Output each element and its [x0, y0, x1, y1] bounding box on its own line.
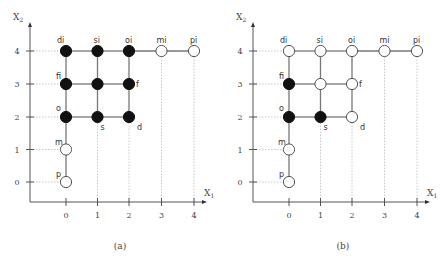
y-tick-label: 0 — [14, 178, 19, 187]
y-tick-label: 4 — [14, 47, 19, 56]
lattice-diagram: 0123401234X2X1disioimipififosdmp(a)01234… — [0, 0, 446, 262]
y-tick-label: 3 — [237, 80, 242, 89]
node-center-filled — [92, 78, 103, 89]
node-label-f: f — [136, 80, 139, 89]
y-axis-arrow-icon — [28, 22, 32, 27]
node-p-empty — [60, 176, 71, 187]
panel-caption: (b) — [337, 241, 350, 251]
x-tick-label: 0 — [286, 211, 291, 220]
node-label-mi: mi — [157, 36, 167, 45]
node-d-empty — [346, 111, 357, 122]
x-axis-label: X1 — [204, 188, 214, 199]
x-tick-label: 1 — [95, 211, 100, 220]
node-label-si: si — [94, 36, 100, 45]
node-p-empty — [283, 176, 294, 187]
x-tick-label: 0 — [63, 211, 68, 220]
x-tick-label: 3 — [159, 211, 164, 220]
node-label-mi: mi — [380, 36, 390, 45]
node-label-di: di — [280, 36, 287, 45]
x-axis-arrow-icon — [425, 200, 430, 204]
node-o-filled — [60, 111, 71, 122]
node-label-o: o — [56, 104, 61, 113]
y-tick-label: 1 — [237, 146, 242, 155]
node-label-p: p — [279, 170, 284, 179]
node-label-p: p — [56, 170, 61, 179]
x-tick-label: 2 — [126, 211, 131, 220]
y-tick-label: 2 — [14, 113, 19, 122]
x-axis-label: X1 — [427, 188, 437, 199]
node-label-oi: oi — [125, 36, 132, 45]
node-oi-empty — [346, 45, 357, 56]
node-s-filled — [92, 111, 103, 122]
x-tick-label: 4 — [191, 211, 196, 220]
y-tick-label: 4 — [237, 47, 242, 56]
node-f-empty — [346, 78, 357, 89]
node-label-m: m — [278, 138, 286, 147]
x-tick-label: 2 — [349, 211, 354, 220]
x-axis-arrow-icon — [202, 200, 207, 204]
node-label-d: d — [360, 123, 365, 132]
node-f-filled — [123, 78, 134, 89]
node-pi-empty — [188, 45, 199, 56]
node-label-o: o — [279, 104, 284, 113]
node-oi-filled — [123, 45, 134, 56]
y-tick-label: 3 — [14, 80, 19, 89]
panel-b: 0123401234X2X1disioimipififosdmp(b) — [236, 12, 437, 251]
y-tick-label: 2 — [237, 113, 242, 122]
node-center-empty — [315, 78, 326, 89]
node-label-pi: pi — [190, 36, 197, 45]
node-di-filled — [60, 45, 71, 56]
y-axis-arrow-icon — [251, 22, 255, 27]
node-label-fi: fi — [56, 72, 61, 81]
panel-a: 0123401234X2X1disioimipififosdmp(a) — [13, 12, 214, 251]
panel-caption: (a) — [114, 241, 126, 251]
node-label-d: d — [137, 123, 142, 132]
y-axis-label: X2 — [236, 12, 246, 23]
x-tick-label: 3 — [382, 211, 387, 220]
node-si-empty — [315, 45, 326, 56]
node-s-filled — [315, 111, 326, 122]
x-tick-label: 1 — [318, 211, 323, 220]
node-di-empty — [283, 45, 294, 56]
node-o-filled — [283, 111, 294, 122]
node-mi-empty — [379, 45, 390, 56]
node-label-s: s — [101, 123, 105, 132]
node-pi-empty — [411, 45, 422, 56]
node-mi-empty — [156, 45, 167, 56]
node-label-si: si — [317, 36, 323, 45]
y-tick-label: 0 — [237, 178, 242, 187]
node-label-pi: pi — [413, 36, 420, 45]
node-label-di: di — [57, 36, 64, 45]
y-tick-label: 1 — [14, 146, 19, 155]
node-label-oi: oi — [348, 36, 355, 45]
node-label-s: s — [324, 123, 328, 132]
node-si-filled — [92, 45, 103, 56]
node-label-f: f — [359, 80, 362, 89]
node-label-m: m — [55, 138, 63, 147]
node-fi-filled — [283, 78, 294, 89]
y-axis-label: X2 — [13, 12, 23, 23]
node-d-filled — [123, 111, 134, 122]
x-tick-label: 4 — [414, 211, 419, 220]
node-label-fi: fi — [279, 72, 284, 81]
node-fi-filled — [60, 78, 71, 89]
